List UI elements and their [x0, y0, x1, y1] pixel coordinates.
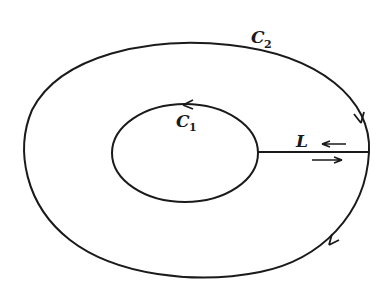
label-c2-subscript: 2: [264, 38, 272, 51]
cut-arrow-right-icon: [312, 157, 342, 163]
cut-arrow-left-icon: [322, 141, 346, 147]
label-l: L: [295, 131, 308, 151]
label-c1-subscript: 1: [189, 121, 197, 134]
contour-diagram: C 2 C 1 L: [0, 0, 390, 307]
label-c1: C: [176, 111, 190, 131]
label-c2: C: [251, 27, 265, 47]
outer-direction-arrow-upper-icon: [354, 112, 364, 123]
